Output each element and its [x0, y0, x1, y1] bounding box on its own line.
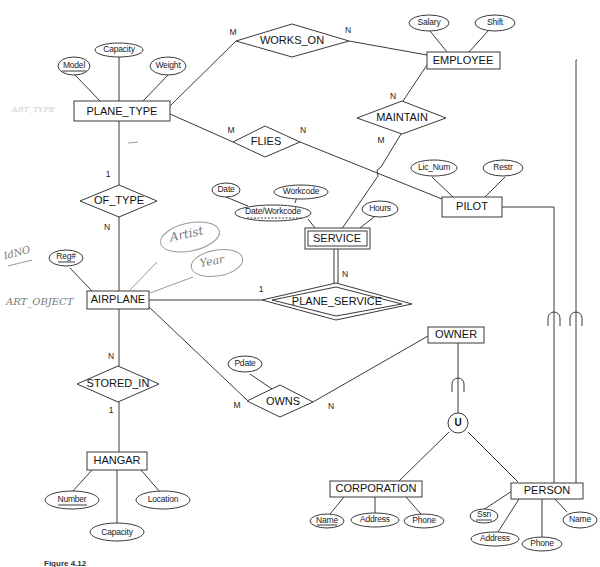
relationship-stored-in[interactable]: STORED_IN [77, 366, 159, 402]
attribute-corp-address[interactable]: Address [351, 513, 399, 527]
handwritten-year-attribute: Year [150, 246, 245, 293]
entity-label: EMPLOYEE [433, 54, 494, 66]
attribute-number-key[interactable]: Number [45, 491, 99, 509]
entity-label: CORPORATION [335, 482, 416, 494]
attribute-label: Phone [412, 515, 436, 525]
relationship-owns[interactable]: OWNS [247, 385, 313, 417]
attribute-label: Address [360, 514, 390, 524]
attribute-label: Weight [155, 60, 181, 70]
relationship-label: OWNS [266, 395, 300, 407]
attribute-ssn-key[interactable]: Ssn [470, 509, 498, 523]
entity-label: AIRPLANE [91, 293, 145, 305]
attribute-label: Name [569, 514, 591, 524]
cardinality-label: M [227, 125, 234, 135]
attribute-pdate[interactable]: Pdate [228, 356, 262, 372]
entity-airplane-weak[interactable]: AIRPLANE [87, 291, 149, 309]
attribute-model-key[interactable]: Model [58, 57, 90, 75]
entity-hangar[interactable]: HANGAR [87, 452, 147, 470]
attribute-label: Pdate [234, 358, 256, 368]
attributes: Model Capacity Weight Salary Shift Lic_N… [45, 15, 597, 551]
attribute-corp-name-key[interactable]: Name [310, 514, 344, 528]
er-diagram: PLANE_TYPE EMPLOYEE PILOT AIRPLANE SERVI… [0, 0, 600, 567]
attribute-label: Ssn [477, 509, 492, 519]
attribute-person-name[interactable]: Name [563, 512, 597, 528]
relationship-label: FLIES [251, 135, 282, 147]
attribute-hangar-capacity[interactable]: Capacity [90, 523, 144, 541]
attribute-date[interactable]: Date [212, 183, 240, 197]
relationship-flies[interactable]: FLIES [233, 126, 300, 157]
entity-owner[interactable]: OWNER [428, 327, 484, 343]
entity-label: SERVICE [313, 232, 361, 244]
attribute-label: Restr [493, 162, 513, 172]
entity-person[interactable]: PERSON [511, 483, 583, 499]
entity-corporation[interactable]: CORPORATION [330, 481, 422, 497]
handwritten-label: Artist [167, 224, 204, 245]
attribute-shift[interactable]: Shift [475, 15, 515, 31]
attribute-label: Number [57, 494, 86, 504]
handwritten-label: IdNO [1, 244, 31, 262]
attribute-label: Capacity [103, 44, 135, 54]
cardinality-label: N [300, 125, 306, 135]
cardinality-label: M [233, 400, 240, 410]
attribute-hours[interactable]: Hours [362, 201, 398, 217]
cardinality-label: M [229, 27, 236, 37]
handwritten-art-object: ART_OBJECT [5, 296, 75, 308]
attribute-label: Date/Workcode [245, 206, 301, 216]
attribute-capacity[interactable]: Capacity [95, 43, 143, 57]
cardinality-label: M [377, 135, 384, 145]
attribute-label: Hours [369, 203, 391, 213]
handwritten-label: Year [199, 253, 226, 270]
attribute-label: Salary [418, 17, 442, 27]
pencil-mark [128, 142, 138, 143]
attribute-reg-key[interactable]: Reg# [49, 250, 83, 266]
relationship-label: STORED_IN [87, 377, 150, 389]
attribute-restr[interactable]: Restr [483, 160, 523, 176]
relationship-maintain[interactable]: MAINTAIN [357, 101, 446, 134]
relationship-of-type[interactable]: OF_TYPE [80, 185, 157, 217]
relationship-label: MAINTAIN [376, 111, 428, 123]
relationship-works-on[interactable]: WORKS_ON [236, 24, 349, 57]
relationship-label: WORKS_ON [260, 34, 324, 46]
cardinality-label: N [345, 25, 351, 35]
entity-label: OWNER [435, 328, 477, 340]
attribute-label: Phone [530, 538, 554, 548]
relationship-label: OF_TYPE [94, 194, 144, 206]
handwritten-faint-note: ART_TYPE [11, 105, 55, 114]
attribute-workcode[interactable]: Workcode [274, 185, 328, 199]
attribute-person-phone[interactable]: Phone [522, 537, 562, 551]
entity-label: PLANE_TYPE [87, 105, 158, 117]
attribute-label: Reg# [56, 251, 76, 261]
entity-service-weak[interactable]: SERVICE [305, 228, 370, 249]
relationship-plane-service-identifying[interactable]: PLANE_SERVICE [262, 283, 412, 320]
entity-employee[interactable]: EMPLOYEE [427, 52, 500, 69]
union-symbol-label: U [454, 417, 461, 428]
attribute-label: Shift [487, 17, 504, 27]
cardinality-label: 1 [109, 405, 114, 415]
subset-symbols [452, 312, 582, 392]
entity-label: PILOT [456, 200, 488, 212]
attribute-location[interactable]: Location [136, 491, 190, 509]
attribute-lic-num[interactable]: Lic_Num [411, 160, 457, 176]
attribute-corp-phone[interactable]: Phone [404, 514, 444, 528]
attribute-salary[interactable]: Salary [409, 15, 449, 31]
cardinality-label: N [328, 401, 334, 411]
cardinality-label: 1 [106, 169, 111, 179]
entity-pilot[interactable]: PILOT [442, 197, 502, 217]
relationship-label: PLANE_SERVICE [292, 295, 382, 307]
attribute-date-workcode-partial-key[interactable]: Date/Workcode [235, 205, 311, 221]
entity-plane-type[interactable]: PLANE_TYPE [74, 101, 170, 121]
attribute-label: Capacity [101, 527, 133, 537]
entity-label: PERSON [524, 484, 571, 496]
attribute-person-address[interactable]: Address [471, 532, 519, 546]
attribute-label: Lic_Num [418, 162, 450, 172]
handwritten-artist-attribute: Artist [129, 217, 222, 291]
attribute-weight[interactable]: Weight [150, 57, 186, 75]
cardinality-label: 1 [259, 284, 264, 294]
attribute-label: Workcode [283, 186, 320, 196]
union-circle[interactable]: U [448, 413, 468, 433]
attribute-label: Date [217, 184, 235, 194]
cardinality-label: N [342, 269, 348, 279]
attribute-label: Name [316, 515, 338, 525]
handwritten-idno: IdNO [1, 244, 32, 266]
cardinality-label: N [108, 351, 114, 361]
